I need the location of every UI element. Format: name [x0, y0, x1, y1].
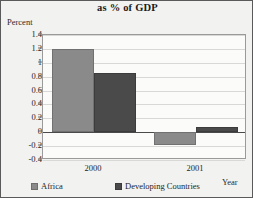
- y-axis-label: Percent: [7, 17, 33, 27]
- legend-label: Africa: [41, 181, 63, 191]
- y-tick-label: 1: [8, 57, 42, 67]
- y-tick-label: 0: [8, 126, 42, 136]
- y-tick-label: 0.8: [8, 71, 42, 81]
- bar-africa-2000: [52, 49, 94, 132]
- plot-inner: [43, 35, 245, 158]
- chart-legend: AfricaDeveloping Countries: [1, 181, 253, 195]
- bar-developing-countries-2000: [94, 73, 136, 133]
- gridline: [43, 160, 245, 161]
- y-tick-label: 1.2: [8, 43, 42, 53]
- legend-swatch-icon: [115, 183, 122, 190]
- bar-africa-2001: [154, 132, 196, 145]
- y-tick-label: 0.4: [8, 98, 42, 108]
- legend-item-developing-countries[interactable]: Developing Countries: [115, 181, 200, 191]
- y-tick-label: 0.2: [8, 112, 42, 122]
- legend-swatch-icon: [31, 183, 38, 190]
- x-tick-label: 2001: [170, 163, 220, 173]
- y-tick-label: -0.2: [8, 140, 42, 150]
- legend-label: Developing Countries: [125, 181, 200, 191]
- gridline: [43, 35, 245, 36]
- chart-figure: as % of GDP Percent Year 1.41.210.80.60.…: [0, 0, 253, 198]
- bar-developing-countries-2001: [196, 127, 238, 132]
- gridline: [43, 146, 245, 147]
- x-tick-label: 2000: [68, 163, 118, 173]
- y-axis-ticks: 1.41.210.80.60.40.20-0.2-0.4: [1, 34, 42, 159]
- chart-title: as % of GDP: [1, 1, 253, 14]
- plot-area: [42, 34, 246, 159]
- zero-line: [43, 132, 245, 133]
- y-tick-label: 0.6: [8, 85, 42, 95]
- y-tick-label: 1.4: [8, 29, 42, 39]
- legend-item-africa[interactable]: Africa: [31, 181, 63, 191]
- y-tick-label: -0.4: [8, 154, 42, 164]
